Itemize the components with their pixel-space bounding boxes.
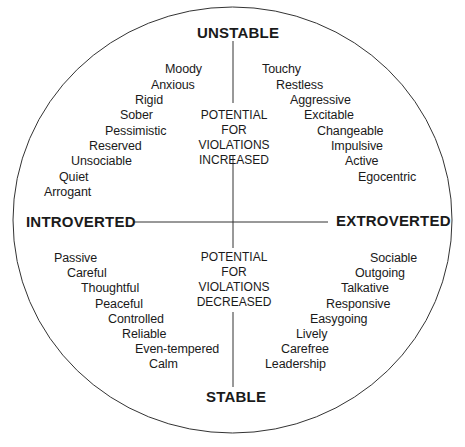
trait-label: Thoughtful	[81, 281, 139, 296]
center-text: INCREASED	[184, 153, 284, 168]
trait-label: Easygoing	[310, 312, 367, 327]
axis-label-right: EXTROVERTED	[336, 212, 451, 229]
trait-label: Calm	[149, 357, 178, 372]
axis-label-left: INTROVERTED	[26, 213, 136, 230]
trait-label: Talkative	[341, 281, 389, 296]
personality-diagram: UNSTABLE STABLE INTROVERTED EXTROVERTED …	[0, 0, 465, 447]
trait-label: Excitable	[304, 108, 354, 123]
trait-label: Quiet	[59, 170, 88, 185]
trait-label: Restless	[276, 78, 323, 93]
trait-label: Pessimistic	[105, 124, 166, 139]
trait-label: Moody	[165, 62, 202, 77]
trait-label: Rigid	[135, 93, 163, 108]
center-text: POTENTIAL	[184, 250, 284, 265]
trait-label: Reserved	[89, 139, 142, 154]
trait-label: Outgoing	[355, 266, 405, 281]
trait-label: Peaceful	[95, 297, 143, 312]
center-text: VIOLATIONS	[184, 138, 284, 153]
center-text: POTENTIAL	[184, 108, 284, 123]
trait-label: Sober	[120, 108, 153, 123]
trait-label: Changeable	[317, 124, 383, 139]
center-text: DECREASED	[184, 295, 284, 310]
trait-label: Reliable	[122, 327, 166, 342]
center-label-increased: POTENTIAL FOR VIOLATIONS INCREASED	[184, 108, 284, 168]
center-text: VIOLATIONS	[184, 280, 284, 295]
trait-label: Carefree	[281, 342, 329, 357]
trait-label: Arrogant	[44, 185, 91, 200]
trait-label: Impulsive	[331, 139, 383, 154]
trait-label: Touchy	[262, 62, 301, 77]
center-text: FOR	[184, 265, 284, 280]
trait-label: Passive	[54, 251, 97, 266]
trait-label: Lively	[296, 327, 327, 342]
trait-label: Responsive	[326, 297, 390, 312]
trait-label: Anxious	[151, 78, 195, 93]
trait-label: Careful	[67, 266, 107, 281]
trait-label: Leadership	[265, 357, 326, 372]
center-label-decreased: POTENTIAL FOR VIOLATIONS DECREASED	[184, 250, 284, 310]
trait-label: Active	[345, 154, 378, 169]
trait-label: Aggressive	[290, 93, 351, 108]
center-text: FOR	[184, 123, 284, 138]
trait-label: Sociable	[370, 251, 417, 266]
trait-label: Controlled	[108, 312, 164, 327]
trait-label: Unsociable	[71, 154, 132, 169]
trait-label: Even-tempered	[135, 342, 219, 357]
axis-label-top: UNSTABLE	[197, 24, 279, 41]
axis-label-bottom: STABLE	[206, 388, 266, 405]
trait-label: Egocentric	[358, 170, 416, 185]
